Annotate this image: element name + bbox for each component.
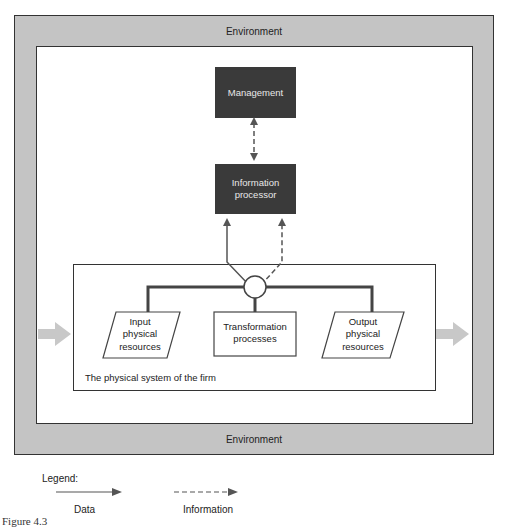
transformation-processes-label: Transformation processes [214,321,296,346]
legend-title: Legend: [42,473,78,484]
output-resources-label: Output physical resources [328,316,398,353]
legend-information-label: Information [183,504,233,515]
diagram-connectors [0,0,506,530]
figure-caption: Figure 4.3 [2,515,47,527]
legend-data-label: Data [74,504,95,515]
input-resources-label: Input physical resources [105,316,175,353]
